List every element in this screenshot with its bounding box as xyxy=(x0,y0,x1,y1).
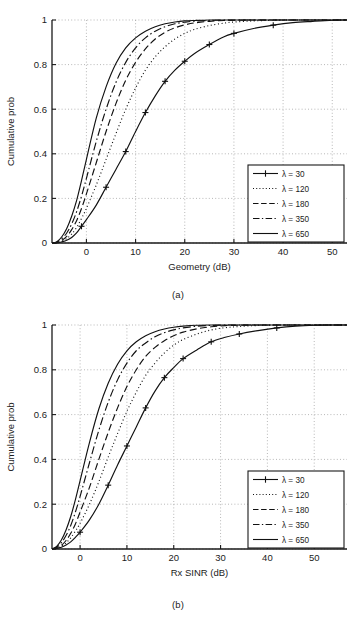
legend-label: λ = 120 xyxy=(282,185,310,194)
y-axis-label: Cumulative prob xyxy=(5,402,16,471)
legend-label: λ = 350 xyxy=(282,521,310,530)
plus-marker xyxy=(143,405,149,411)
legend-label: λ = 650 xyxy=(282,230,310,239)
x-tick-label: 50 xyxy=(327,246,338,257)
legend[interactable]: λ = 30λ = 120λ = 180λ = 350λ = 650 xyxy=(248,471,344,548)
y-tick-label: 0.8 xyxy=(34,364,47,375)
y-tick-label: 0.4 xyxy=(34,148,47,159)
plus-marker xyxy=(142,110,148,116)
plus-marker xyxy=(231,30,237,36)
x-tick-label: 30 xyxy=(215,552,226,563)
plus-marker xyxy=(105,482,111,488)
panel-b-caption: (b) xyxy=(0,599,356,610)
plus-marker xyxy=(208,339,214,345)
x-tick-label: 20 xyxy=(179,246,190,257)
x-tick-label: 40 xyxy=(262,552,273,563)
x-tick-label: 0 xyxy=(77,552,82,563)
x-axis-label: Geometry (dB) xyxy=(168,261,230,272)
y-axis-label: Cumulative prob xyxy=(5,97,16,166)
y-tick-label: 0.6 xyxy=(34,104,47,115)
y-tick-label: 0.4 xyxy=(34,454,47,465)
y-tick-label: 0 xyxy=(42,237,47,248)
y-tick-label: 0.8 xyxy=(34,59,47,70)
y-tick-label: 0 xyxy=(42,543,47,554)
plus-marker xyxy=(236,331,242,337)
plus-marker xyxy=(103,184,109,190)
x-tick-label: 10 xyxy=(130,246,141,257)
plus-marker xyxy=(274,325,280,331)
chart-a-canvas: 0102030405000.20.40.60.81Geometry (dB)Cu… xyxy=(0,0,356,305)
x-tick-label: 30 xyxy=(229,246,240,257)
x-tick-label: 20 xyxy=(168,552,179,563)
figure-cdf-plots: 0102030405000.20.40.60.81Geometry (dB)Cu… xyxy=(0,0,356,621)
plus-marker xyxy=(124,443,130,449)
x-axis-label: Rx SINR (dB) xyxy=(171,567,229,578)
legend-label: λ = 30 xyxy=(282,170,305,179)
plus-marker xyxy=(270,22,276,28)
x-tick-label: 50 xyxy=(309,552,320,563)
plus-marker xyxy=(123,149,129,155)
panel-a-caption: (a) xyxy=(0,289,356,300)
chart-panel-a: 0102030405000.20.40.60.81Geometry (dB)Cu… xyxy=(0,0,356,305)
legend-label: λ = 180 xyxy=(282,506,310,515)
chart-panel-b: 0102030405000.20.40.60.81Rx SINR (dB)Cum… xyxy=(0,310,356,615)
legend-label: λ = 30 xyxy=(282,476,305,485)
chart-b-canvas: 0102030405000.20.40.60.81Rx SINR (dB)Cum… xyxy=(0,310,356,615)
x-tick-label: 40 xyxy=(278,246,289,257)
legend-label: λ = 120 xyxy=(282,491,310,500)
x-tick-label: 0 xyxy=(84,246,89,257)
y-tick-label: 1 xyxy=(42,319,47,330)
legend-label: λ = 650 xyxy=(282,536,310,545)
x-tick-label: 10 xyxy=(122,552,133,563)
legend-label: λ = 350 xyxy=(282,215,310,224)
y-tick-label: 0.2 xyxy=(34,499,47,510)
y-tick-label: 0.2 xyxy=(34,193,47,204)
legend-label: λ = 180 xyxy=(282,200,310,209)
legend[interactable]: λ = 30λ = 120λ = 180λ = 350λ = 650 xyxy=(248,165,344,242)
y-tick-label: 0.6 xyxy=(34,409,47,420)
y-tick-label: 1 xyxy=(42,14,47,25)
plus-marker xyxy=(206,42,212,48)
